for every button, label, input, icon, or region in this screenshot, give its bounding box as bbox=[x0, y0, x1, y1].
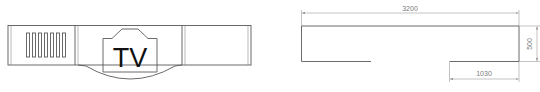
vent-slot bbox=[51, 33, 54, 57]
dimension-overall-width: 3200 bbox=[302, 5, 520, 27]
tv-label: TV bbox=[113, 43, 148, 73]
top-view-outline bbox=[302, 26, 520, 62]
vent-slots bbox=[27, 33, 66, 57]
drawing-canvas: TV 3200 500 1030 bbox=[0, 0, 540, 92]
vent-slot bbox=[45, 33, 48, 57]
dimension-label-1030: 1030 bbox=[476, 70, 492, 77]
vent-slot bbox=[33, 33, 36, 57]
dimension-depth: 500 bbox=[519, 26, 540, 62]
vent-slot bbox=[27, 33, 30, 57]
front-view-drawing: TV bbox=[8, 26, 251, 80]
vent-slot bbox=[57, 33, 60, 57]
dimension-side-segment: 1030 bbox=[450, 62, 520, 83]
vent-slot bbox=[63, 33, 66, 57]
top-view-drawing: 3200 500 1030 bbox=[302, 5, 540, 83]
dimension-label-500: 500 bbox=[526, 38, 533, 50]
dimension-label-3200: 3200 bbox=[402, 5, 418, 12]
vent-slot bbox=[39, 33, 42, 57]
